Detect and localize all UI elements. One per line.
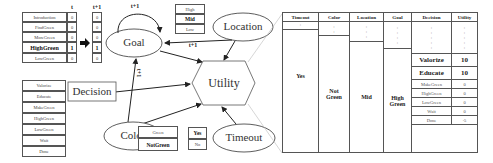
goal-state-t1: 0 xyxy=(92,32,102,42)
transition-arrow-icon xyxy=(80,38,90,48)
location-value-cell: Mid xyxy=(349,41,384,153)
location-utility-edge xyxy=(224,41,235,60)
goal-self-loop-label: t+1 xyxy=(128,3,142,9)
decision-ellipsis: ::::: xyxy=(411,21,452,54)
location-option: Mid xyxy=(175,14,205,24)
ellipsis-mark: : xyxy=(397,40,398,45)
decision-option: Done xyxy=(22,146,66,157)
decision-option: MakeGreen xyxy=(22,102,66,113)
goal-state-label: FindGreen xyxy=(22,22,67,32)
timeout-value-cell: Yes xyxy=(282,29,319,153)
color-ellipsis: :: xyxy=(318,21,350,36)
decision-node-label[interactable]: Decision xyxy=(68,85,116,97)
goal-ellipsis: :::: xyxy=(383,21,412,49)
location-ellipsis: ::: xyxy=(349,21,384,42)
goal-value-cell: High Green xyxy=(383,48,412,153)
goal-node-label[interactable]: Goal xyxy=(110,36,158,48)
utility-ellipsis: ::::: xyxy=(451,21,478,54)
goal-state-t: 0 xyxy=(67,22,77,32)
decision-option: LowGreen xyxy=(22,124,66,135)
goal-state-label: MoreGreen xyxy=(22,32,67,42)
color-option: Green xyxy=(138,126,178,138)
location-option: High xyxy=(175,4,205,14)
decision-row-cell: Valorize xyxy=(411,53,452,67)
goal-state-t: 0 xyxy=(67,32,77,42)
location-goal-edge-label: t+1 xyxy=(186,42,200,48)
decision-option: Wait xyxy=(22,135,66,146)
goal-table-header-t1: t+1 xyxy=(90,4,104,10)
goal-state-t: 0 xyxy=(67,12,77,22)
decision-option: Educate xyxy=(22,91,66,102)
goal-table-header-t: t xyxy=(67,4,77,10)
goal-state-label: Introduction xyxy=(22,12,67,22)
goal-state-label: LowGreen xyxy=(22,53,67,63)
goal-state-t1: 0 xyxy=(92,22,102,32)
ellipsis-mark: : xyxy=(431,45,432,50)
color-goal-edge-label: t+1 xyxy=(136,66,142,80)
location-option: Low xyxy=(175,24,205,34)
ellipsis-mark: : xyxy=(464,45,465,50)
timeout-node-label[interactable]: Timeout xyxy=(213,131,275,143)
goal-state-t: 1 xyxy=(67,42,77,53)
timeout-option: Yes xyxy=(188,127,207,139)
goal-utility-edge xyxy=(160,51,202,62)
utility-node-label[interactable]: Utility xyxy=(196,76,252,91)
goal-state-t1: 0 xyxy=(92,12,102,22)
ellipsis-mark: : xyxy=(300,22,301,27)
ellipsis-mark: : xyxy=(366,34,367,39)
color-value-cell: Not Green xyxy=(318,35,350,153)
decision-option: HighGreen xyxy=(22,113,66,124)
decision-option: Valorize xyxy=(22,80,66,91)
ellipsis-mark: : xyxy=(333,29,334,34)
decision-utility-edge xyxy=(115,84,190,92)
utility-row-cell: 10 xyxy=(451,66,478,80)
goal-state-t1: 1 xyxy=(92,42,102,53)
color-option: NotGreen xyxy=(138,138,178,151)
timeout-option: No xyxy=(188,139,207,150)
utility-table-bottom-border xyxy=(411,124,478,153)
goal-state-t: 0 xyxy=(67,53,77,63)
goal-state-label: HighGreen xyxy=(22,42,67,53)
location-node-label[interactable]: Location xyxy=(213,20,273,32)
timeout-utility-edge xyxy=(222,107,236,124)
decision-row-cell: Educate xyxy=(411,66,452,80)
goal-state-t1: 0 xyxy=(92,53,102,63)
utility-row-cell: 10 xyxy=(451,53,478,67)
